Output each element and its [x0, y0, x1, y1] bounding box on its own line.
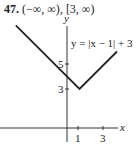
x-tick-label-1: 1 — [75, 132, 81, 144]
x-axis-label: x — [119, 121, 125, 133]
y-tick-label-3: 3 — [58, 83, 64, 95]
equation-label: y = |x − 1| + 3 — [71, 37, 133, 49]
graph: y x 5 3 1 3 y = |x − 1| + 3 — [0, 0, 136, 154]
y-axis-label: y — [63, 12, 69, 24]
x-tick-label-3: 3 — [100, 132, 106, 144]
function-curve — [16, 25, 117, 89]
